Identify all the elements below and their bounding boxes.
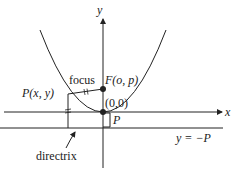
equal-tick-mark <box>87 89 88 95</box>
distance-bracket <box>103 113 110 127</box>
y-axis-label: y <box>96 3 103 17</box>
x-axis-label: x <box>224 105 231 119</box>
equal-tick-mark <box>65 109 71 110</box>
focus-point-label: F(o, p) <box>104 73 138 87</box>
directrix-pointer-arrow <box>66 132 75 148</box>
directrix-label: directrix <box>36 149 77 163</box>
point-label: P(x, y) <box>21 86 54 100</box>
focus-label: focus <box>69 73 95 87</box>
vertex-label: (0,0) <box>105 96 128 110</box>
distance-label: P <box>112 113 121 127</box>
directrix-equation-label: y = −P <box>175 131 212 145</box>
p-to-focus-segment <box>68 89 103 94</box>
equal-tick-mark <box>84 89 85 95</box>
parabola-diagram: x y P focus F(o, p) P(x, y) (0,0) y = −P… <box>0 0 233 169</box>
